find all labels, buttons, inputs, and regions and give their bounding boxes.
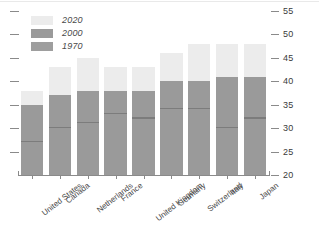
x-axis-category-label: Japan bbox=[258, 181, 281, 202]
x-axis-tick bbox=[32, 175, 33, 179]
bar-segment-2000 bbox=[160, 81, 182, 175]
bar-marker-1970 bbox=[216, 127, 238, 129]
x-axis-tick bbox=[199, 175, 200, 179]
x-axis-category-label: Italy bbox=[228, 181, 245, 197]
y-axis-tick-label: 45 bbox=[283, 53, 293, 63]
y-axis-right-tick bbox=[271, 34, 279, 35]
y-axis-tick-label: 55 bbox=[283, 6, 293, 16]
bar-marker-1970 bbox=[77, 122, 99, 124]
y-axis-right-tick bbox=[271, 58, 279, 59]
y-axis-tick-label: 25 bbox=[283, 147, 293, 157]
y-axis-right-tick bbox=[271, 152, 279, 153]
bar-marker-1970 bbox=[132, 117, 154, 119]
top-rule-divider bbox=[0, 1, 319, 2]
x-axis-tick bbox=[255, 175, 256, 179]
bar-group bbox=[132, 67, 154, 175]
bar-group bbox=[160, 53, 182, 175]
bar-segment-2000 bbox=[49, 95, 71, 175]
bar-marker-1970 bbox=[21, 141, 43, 143]
bar-marker-1970 bbox=[188, 108, 210, 110]
y-axis-tick-label: 35 bbox=[283, 100, 293, 110]
chart-container: 2020 2000 1970 2025303540455055 United S… bbox=[0, 0, 319, 233]
y-axis-right-tick bbox=[271, 128, 279, 129]
bar-group bbox=[104, 67, 126, 175]
bar-group bbox=[21, 91, 43, 175]
chart-plot-area bbox=[18, 8, 268, 175]
bar-marker-1970 bbox=[244, 117, 266, 119]
bar-marker-1970 bbox=[160, 108, 182, 110]
bar-segment-2000 bbox=[77, 91, 99, 175]
bar-segment-2000 bbox=[244, 77, 266, 175]
x-axis-tick bbox=[144, 175, 145, 179]
bar-group bbox=[216, 44, 238, 175]
x-axis-tick bbox=[88, 175, 89, 179]
x-axis-tick bbox=[116, 175, 117, 179]
bar-segment-2000 bbox=[104, 91, 126, 175]
bar-group bbox=[244, 44, 266, 175]
bar-segment-2000 bbox=[188, 81, 210, 175]
y-axis-right-tick bbox=[271, 81, 279, 82]
y-axis-tick-label: 40 bbox=[283, 76, 293, 86]
x-axis-left-cap bbox=[18, 171, 19, 176]
bar-group bbox=[188, 44, 210, 175]
x-axis-right-cap bbox=[269, 171, 270, 176]
bar-segment-2000 bbox=[132, 91, 154, 175]
bar-group bbox=[77, 58, 99, 175]
bar-group bbox=[49, 67, 71, 175]
bar-marker-1970 bbox=[104, 113, 126, 115]
y-axis-tick-label: 30 bbox=[283, 123, 293, 133]
y-axis-tick-label: 50 bbox=[283, 29, 293, 39]
y-axis-right-tick bbox=[271, 175, 279, 176]
y-axis-right-tick bbox=[271, 11, 279, 12]
bar-marker-1970 bbox=[49, 127, 71, 129]
x-axis-tick bbox=[171, 175, 172, 179]
x-axis-tick bbox=[227, 175, 228, 179]
y-axis-tick-label: 20 bbox=[283, 170, 293, 180]
y-axis-right-tick bbox=[271, 105, 279, 106]
x-axis-tick bbox=[60, 175, 61, 179]
